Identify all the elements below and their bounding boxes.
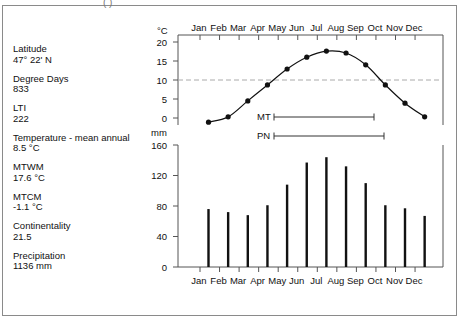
month-label-bottom: Dec — [406, 275, 423, 286]
temperature-point — [363, 62, 368, 67]
month-label-top: Sep — [347, 22, 364, 33]
temp-y-tick-label: 0 — [162, 113, 167, 124]
precipitation-bar — [266, 205, 268, 267]
month-label-bottom: Apr — [250, 275, 265, 286]
temperature-point — [343, 50, 348, 55]
precipitation-bar — [325, 157, 327, 267]
month-label-top: Dec — [406, 22, 423, 33]
temp-y-tick-label: 20 — [156, 37, 167, 48]
temperature-point — [265, 82, 270, 87]
precip-x-ticks: JanFebMarAprMayJunJulAugSepOctNovDec — [191, 267, 422, 286]
month-label-top: Oct — [368, 22, 383, 33]
precipitation-bar — [247, 215, 249, 267]
precip-y-tick-label: 40 — [156, 231, 167, 242]
month-label-top: Nov — [386, 22, 403, 33]
temperature-point — [285, 66, 290, 71]
precip-y-ticks: 04080120160 — [151, 140, 178, 273]
temperature-point — [324, 49, 329, 54]
precipitation-bar — [227, 212, 229, 267]
month-label-top: Mar — [230, 22, 246, 33]
month-label-bottom: May — [268, 275, 286, 286]
precipitation-bars — [207, 157, 426, 267]
month-label-top: May — [268, 22, 286, 33]
temp-y-tick-label: 15 — [156, 56, 167, 67]
precip-unit-label: mm — [151, 127, 167, 138]
pn-label: PN — [257, 130, 270, 141]
precip-y-tick-label: 80 — [156, 201, 167, 212]
temperature-chart: °C 05101520 JanFebMarAprMayJunJulAugSepO… — [156, 22, 443, 141]
precipitation-bar — [345, 166, 347, 267]
temperature-point — [304, 55, 309, 60]
month-label-top: Feb — [210, 22, 226, 33]
month-label-top: Aug — [327, 22, 344, 33]
precipitation-bar — [423, 216, 425, 267]
precip-y-tick-label: 0 — [162, 262, 167, 273]
precip-y-tick-label: 160 — [151, 140, 167, 151]
climate-diagram: °C 05101520 JanFebMarAprMayJunJulAugSepO… — [0, 0, 460, 321]
temperature-point — [383, 82, 388, 87]
month-label-bottom: Aug — [327, 275, 344, 286]
month-label-bottom: Mar — [230, 275, 246, 286]
precipitation-bar — [384, 205, 386, 267]
temp-y-ticks: 05101520 — [156, 37, 178, 124]
temp-x-ticks: JanFebMarAprMayJunJulAugSepOctNovDec — [191, 22, 422, 40]
temperature-point — [206, 120, 211, 125]
month-label-bottom: Jun — [289, 275, 304, 286]
temperature-point — [422, 114, 427, 119]
temp-y-tick-label: 10 — [156, 75, 167, 86]
mt-label: MT — [257, 111, 271, 122]
temperature-points — [206, 49, 427, 125]
precipitation-bar — [286, 185, 288, 267]
precipitation-bar — [306, 163, 308, 267]
precipitation-chart: mm 04080120160 JanFebMarAprMayJunJulAugS… — [151, 127, 443, 286]
temperature-point — [226, 114, 231, 119]
precip-y-tick-label: 120 — [151, 170, 167, 181]
precipitation-bar — [404, 208, 406, 267]
month-label-bottom: Oct — [368, 275, 383, 286]
temperature-curve — [209, 51, 425, 122]
month-label-top: Jul — [310, 22, 322, 33]
month-label-top: Jan — [191, 22, 206, 33]
month-label-bottom: Feb — [210, 275, 226, 286]
temperature-point — [245, 98, 250, 103]
month-label-top: Apr — [250, 22, 265, 33]
precipitation-bar — [365, 183, 367, 267]
temperature-point — [402, 101, 407, 106]
temp-y-tick-label: 5 — [162, 94, 167, 105]
month-label-top: Jun — [289, 22, 304, 33]
month-label-bottom: Jul — [310, 275, 322, 286]
month-label-bottom: Sep — [347, 275, 364, 286]
month-label-bottom: Nov — [386, 275, 403, 286]
temp-unit-label: °C — [157, 25, 168, 36]
month-label-bottom: Jan — [191, 275, 206, 286]
precipitation-bar — [207, 209, 209, 267]
